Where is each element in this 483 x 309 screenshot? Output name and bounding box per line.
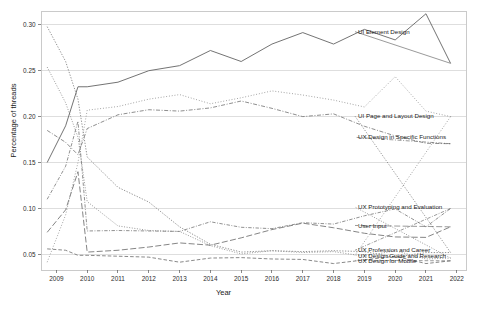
y-axis-ticks: 0.050.100.150.200.250.30 [23,21,41,258]
y-tick-label: 0.20 [23,113,36,120]
x-tick-label: 2011 [111,275,125,282]
y-axis-title: Percentage of threads [9,83,18,157]
x-tick-label: 2009 [49,275,64,282]
chart-canvas: 0.050.100.150.200.250.30 200920102011201… [0,0,483,309]
series-line [47,67,450,259]
series-label: UX Design for Mobile [358,257,417,264]
x-tick-label: 2010 [80,275,95,282]
x-tick-label: 2021 [419,275,434,282]
x-tick-label: 2012 [142,275,157,282]
plot-area-border [41,11,466,270]
x-tick-label: 2016 [265,275,280,282]
x-tick-label: 2013 [172,275,187,282]
y-tick-label: 0.05 [23,251,36,258]
y-tick-label: 0.25 [23,67,36,74]
x-tick-label: 2017 [296,275,311,282]
x-tick-label: 2020 [388,275,403,282]
x-tick-label: 2014 [203,275,218,282]
series-label: User Input [358,222,387,229]
series-label: UX Design in Specific Functions [358,133,446,140]
series-line [47,27,450,258]
x-tick-label: 2022 [450,275,465,282]
series-labels: UI Element DesignUI Page and Layout Desi… [358,28,447,264]
series-label: UX Prototyping and Evaluation [358,203,443,210]
series-line [47,77,450,263]
y-tick-label: 0.30 [23,21,36,28]
x-tick-label: 2019 [357,275,372,282]
series-leader-line [355,32,451,64]
x-tick-label: 2015 [234,275,249,282]
x-axis-title: Year [216,288,232,297]
y-tick-label: 0.15 [23,159,36,166]
series-label: UI Element Design [358,28,410,35]
series-label: UI Page and Layout Design [358,112,434,119]
series-leader-line [355,208,451,250]
series-line [47,172,450,252]
y-tick-label: 0.10 [23,205,36,212]
x-axis-ticks: 2009201020112012201320142015201620172018… [49,270,464,282]
x-tick-label: 2018 [326,275,341,282]
line-chart: 0.050.100.150.200.250.30 200920102011201… [0,0,483,309]
series-line [47,101,450,155]
